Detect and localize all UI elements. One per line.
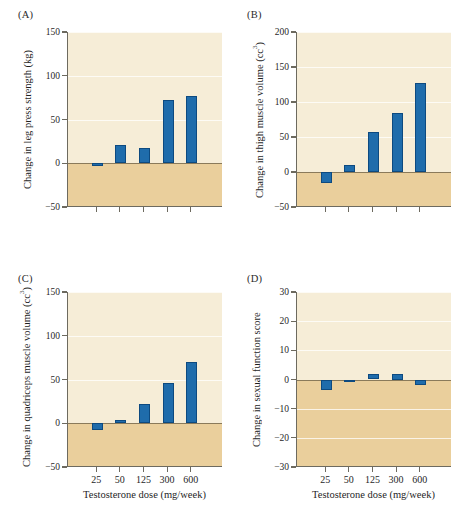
panel-a-x-tick bbox=[96, 207, 97, 212]
panel-a-bar bbox=[115, 145, 126, 163]
panel-a-y-tick bbox=[62, 31, 67, 32]
panel-c-gridline bbox=[68, 292, 222, 293]
panel-b-y-axis-title-pre: Change in thigh muscle volume (cc bbox=[254, 49, 265, 198]
panel-a-x-tick bbox=[119, 207, 120, 212]
panel-d-bar bbox=[344, 380, 355, 383]
panel-d-y-tick-label: 30 bbox=[280, 287, 290, 297]
panel-c-y-axis-title-sup: 3 bbox=[18, 291, 26, 295]
panel-a-negative-region bbox=[68, 163, 222, 207]
panel-d-y-tick-label: −20 bbox=[274, 433, 289, 443]
panel-a-plot: Testosterone dose (mg/week) −50050100150 bbox=[67, 32, 222, 207]
panel-b-gridline bbox=[297, 32, 451, 33]
panel-b-y-axis-title-sup: 3 bbox=[251, 45, 259, 49]
panel-b-y-axis-title-post: ) bbox=[254, 41, 265, 45]
panel-b-y-tick bbox=[291, 136, 296, 137]
panel-c-x-tick-label: 300 bbox=[160, 474, 175, 485]
panel-c-y-tick-label: 0 bbox=[55, 418, 60, 428]
panel-c-bar bbox=[115, 420, 126, 424]
panel-d-gridline bbox=[297, 409, 451, 410]
panel-c-gridline bbox=[68, 380, 222, 381]
panel-b-y-tick-label: 100 bbox=[275, 97, 289, 107]
panel-c-y-tick bbox=[62, 291, 67, 292]
panel-d-x-tick-label: 25 bbox=[320, 474, 330, 485]
panel-b-y-tick bbox=[291, 206, 296, 207]
panel-d-negative-region bbox=[297, 380, 451, 468]
panel-c-gridline bbox=[68, 336, 222, 337]
panel-d-y-tick-label: −30 bbox=[274, 462, 289, 472]
panel-c-x-tick bbox=[167, 467, 168, 472]
panel-c-y-tick bbox=[62, 466, 67, 467]
panel-d-x-tick-label: 600 bbox=[412, 474, 427, 485]
panel-c-x-axis-title: Testosterone dose (mg/week) bbox=[67, 489, 222, 500]
panel-d-y-tick bbox=[291, 379, 296, 380]
panel-d-x-tick bbox=[396, 467, 397, 472]
panel-d-plot-area bbox=[296, 292, 451, 467]
panel-a-bar bbox=[163, 100, 174, 163]
panel-a-bar bbox=[186, 96, 197, 163]
panel-c-x-tick-label: 125 bbox=[136, 474, 151, 485]
panel-d-y-axis-title: Change in sexual function score bbox=[251, 292, 262, 467]
panel-c-y-tick bbox=[62, 335, 67, 336]
panel-d-x-tick-label: 125 bbox=[365, 474, 380, 485]
panel-b-y-tick bbox=[291, 31, 296, 32]
panel-b-x-tick bbox=[396, 207, 397, 212]
panel-d-label: (D) bbox=[247, 273, 262, 284]
panel-b-y-axis-title: Change in thigh muscle volume (cc3) bbox=[251, 32, 265, 207]
panel-c-y-tick bbox=[62, 379, 67, 380]
panel-a-y-tick bbox=[62, 75, 67, 76]
panel-a-y-tick-label: 150 bbox=[46, 27, 60, 37]
panel-c-y-tick-label: 50 bbox=[51, 375, 61, 385]
panel-b-bar bbox=[415, 83, 426, 172]
panel-c-x-axis-line bbox=[67, 466, 222, 467]
panel-d-x-tick bbox=[325, 467, 326, 472]
panel-b-gridline bbox=[297, 102, 451, 103]
panel-c-y-axis-title-pre: Change in quadriceps muscle volume (cc bbox=[21, 294, 32, 467]
panel-a: (A) Change in leg press strength (kg) Te… bbox=[0, 0, 229, 264]
panel-d-gridline bbox=[297, 438, 451, 439]
panel-d-y-tick bbox=[291, 437, 296, 438]
panel-a-y-tick bbox=[62, 163, 67, 164]
panel-d-bar bbox=[392, 374, 403, 379]
panel-d-y-tick bbox=[291, 291, 296, 292]
panel-a-x-tick bbox=[167, 207, 168, 212]
figure-testosterone-dose-response: (A) Change in leg press strength (kg) Te… bbox=[0, 0, 458, 528]
panel-d-y-tick-label: 20 bbox=[280, 316, 290, 326]
panel-a-y-axis-title: Change in leg press strength (kg) bbox=[22, 32, 33, 207]
panel-d-x-axis-title: Testosterone dose (mg/week) bbox=[296, 489, 451, 500]
panel-b-bar bbox=[321, 172, 332, 183]
panel-a-gridline bbox=[68, 120, 222, 121]
panel-d-x-tick bbox=[372, 467, 373, 472]
panel-b-x-tick bbox=[348, 207, 349, 212]
panel-c-x-tick-label: 25 bbox=[91, 474, 101, 485]
panel-d-x-axis-line bbox=[296, 466, 451, 467]
panel-c-x-tick bbox=[96, 467, 97, 472]
panel-d-x-tick bbox=[419, 467, 420, 472]
panel-a-y-tick-label: −50 bbox=[45, 202, 60, 212]
panel-c-x-tick bbox=[143, 467, 144, 472]
panel-c: (C) Change in quadriceps muscle volume (… bbox=[0, 264, 229, 528]
panel-b-y-tick-label: 50 bbox=[280, 132, 290, 142]
panel-a-bar bbox=[139, 148, 150, 164]
panel-d-gridline bbox=[297, 350, 451, 351]
panel-d-x-tick-label: 300 bbox=[389, 474, 404, 485]
panel-b-gridline bbox=[297, 67, 451, 68]
panel-c-bar bbox=[92, 423, 103, 430]
panel-d: (D) Change in sexual function score Test… bbox=[229, 264, 458, 528]
panel-a-y-tick-label: 0 bbox=[55, 158, 60, 168]
panel-a-y-tick-label: 100 bbox=[46, 71, 60, 81]
panel-c-x-tick bbox=[190, 467, 191, 472]
panel-a-y-tick-label: 50 bbox=[51, 115, 61, 125]
panel-b-y-tick-label: 0 bbox=[284, 167, 289, 177]
panel-d-y-tick-label: 0 bbox=[284, 375, 289, 385]
panel-b-plot: −50050100150200 bbox=[296, 32, 451, 207]
panel-b-x-axis-line bbox=[296, 206, 451, 207]
panel-d-y-tick bbox=[291, 350, 296, 351]
panel-d-y-tick bbox=[291, 466, 296, 467]
panel-b-bar bbox=[344, 165, 355, 172]
panel-a-y-tick bbox=[62, 119, 67, 120]
panel-c-label: (C) bbox=[18, 273, 33, 284]
panel-a-x-axis-line bbox=[67, 206, 222, 207]
panel-b-x-tick bbox=[325, 207, 326, 212]
panel-c-y-axis-title-post: ) bbox=[21, 287, 32, 291]
panel-c-x-tick bbox=[119, 467, 120, 472]
